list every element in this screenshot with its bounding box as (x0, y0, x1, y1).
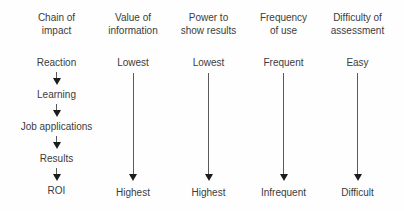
column-difficulty-of-assessment: Difficulty of assessment Easy Difficult (321, 0, 404, 211)
column-frequency-of-use: Frequency of use Frequent Infrequent (246, 0, 321, 211)
header-line-1: Chain of (38, 11, 75, 24)
scale-bottom-label: Infrequent (261, 186, 306, 199)
column-chain-of-impact: Chain of impact Reaction Learning Job ap… (0, 0, 95, 211)
chain-step-learning: Learning (37, 88, 76, 101)
scale-top-label: Easy (346, 56, 368, 69)
down-arrow-icon (53, 168, 61, 181)
arrow-shaft (357, 73, 358, 174)
scale-bottom-label: Highest (116, 186, 150, 199)
arrow-head (53, 142, 61, 149)
scale-top-label: Frequent (263, 56, 303, 69)
arrow-shaft (208, 73, 209, 174)
arrow-shaft (283, 73, 284, 174)
down-arrow-icon (354, 73, 362, 181)
arrow-head (53, 78, 61, 85)
scale-bottom-label: Highest (192, 186, 226, 199)
header-line-2: of use (260, 24, 307, 37)
down-arrow-icon (53, 72, 61, 85)
header-line-1: Difficulty of (331, 11, 384, 24)
chain-step-results: Results (40, 152, 73, 165)
chain-step-reaction: Reaction (37, 56, 76, 69)
column-value-of-information: Value of information Lowest Highest (95, 0, 171, 211)
column-power-to-show-results: Power to show results Lowest Highest (171, 0, 246, 211)
scale-bottom-label: Difficult (341, 186, 374, 199)
scale-top-label: Lowest (193, 56, 225, 69)
header-line-1: Frequency (260, 11, 307, 24)
down-arrow-icon (205, 73, 213, 181)
chain-step-job-applications: Job applications (21, 120, 93, 133)
header-line-1: Value of (108, 11, 157, 24)
down-arrow-icon (53, 136, 61, 149)
column-header-power-to-show-results: Power to show results (181, 11, 237, 37)
arrow-shaft (133, 73, 134, 174)
chain-step-roi: ROI (48, 184, 66, 197)
down-arrow-icon (53, 104, 61, 117)
header-line-1: Power to (181, 11, 237, 24)
column-header-frequency-of-use: Frequency of use (260, 11, 307, 37)
header-line-2: show results (181, 24, 237, 37)
arrow-head (129, 174, 137, 181)
down-arrow-icon (280, 73, 288, 181)
scale-top-label: Lowest (117, 56, 149, 69)
arrow-head (53, 174, 61, 181)
arrow-head (205, 174, 213, 181)
header-line-2: information (108, 24, 157, 37)
header-line-2: impact (38, 24, 75, 37)
arrow-head (53, 110, 61, 117)
chain-of-impact-diagram: Chain of impact Reaction Learning Job ap… (0, 0, 404, 211)
header-line-2: assessment (331, 24, 384, 37)
column-header-value-of-information: Value of information (108, 11, 157, 37)
down-arrow-icon (129, 73, 137, 181)
arrow-head (280, 174, 288, 181)
arrow-head (354, 174, 362, 181)
column-header-difficulty-of-assessment: Difficulty of assessment (331, 11, 384, 37)
column-header-chain-of-impact: Chain of impact (38, 11, 75, 37)
